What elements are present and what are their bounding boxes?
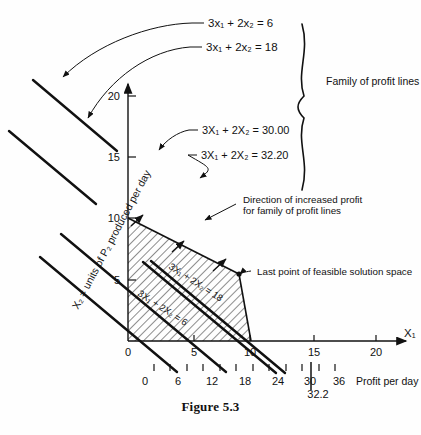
linear-programming-graph: 3x₁ + 2x₂ = 6 3x₁ + 2x₂ = 18 3X₁ + 2X₂ =… (0, 0, 421, 435)
figure-caption: Figure 5.3 (0, 399, 421, 415)
last-point-label: Last point of feasible solution space (257, 266, 413, 277)
x-tick-20: 20 (370, 346, 382, 358)
figure-5-3: 3x₁ + 2x₂ = 6 3x₁ + 2x₂ = 18 3X₁ + 2X₂ =… (0, 0, 421, 435)
eq-label-32: 3X₁ + 2X₂ = 32.20 (201, 149, 289, 161)
profit-tick-label-30: 30 (304, 375, 316, 387)
x-tick-5: 5 (191, 346, 197, 358)
profit-tick-label-36: 36 (333, 375, 345, 387)
y-tick-15: 15 (108, 151, 120, 163)
x-tick-10: 10 (244, 346, 256, 358)
eq-label-30: 3X₁ + 2X₂ = 30.00 (202, 124, 290, 136)
direction-label-line2: for family of profit lines (243, 205, 341, 216)
profit-tick-label-12: 12 (206, 375, 218, 387)
leader-eq30 (159, 130, 189, 150)
x-tick-15: 15 (308, 346, 320, 358)
direction-label-line1: Direction of increased profit (243, 194, 363, 205)
family-of-profit-lines-label: Family of profit lines (326, 75, 419, 87)
profit-tick-label-24: 24 (272, 375, 284, 387)
profit-tick-label-0: 0 (142, 375, 148, 387)
leader-direction (205, 204, 236, 220)
optimal-vertex-marker (236, 271, 241, 276)
x-axis-label: X₁ (404, 327, 416, 339)
y-tick-20: 20 (108, 90, 120, 102)
eq-label-6: 3x₁ + 2x₂ = 6 (208, 17, 273, 29)
profit-tick-label-6: 6 (175, 375, 181, 387)
profit-line-6-ext (9, 131, 96, 204)
profit-line-18-ext (33, 80, 117, 151)
eq-label-18: 3x₁ + 2x₂ = 18 (206, 41, 278, 53)
family-brace (298, 24, 305, 190)
profit-axis-label: Profit per day (356, 375, 419, 387)
x-tick-0: 0 (125, 346, 131, 358)
leader-last-point (240, 271, 251, 274)
profit-tick-label-18: 18 (239, 375, 251, 387)
y-tick-5: 5 (114, 274, 120, 286)
leader-eq18 (88, 47, 190, 118)
